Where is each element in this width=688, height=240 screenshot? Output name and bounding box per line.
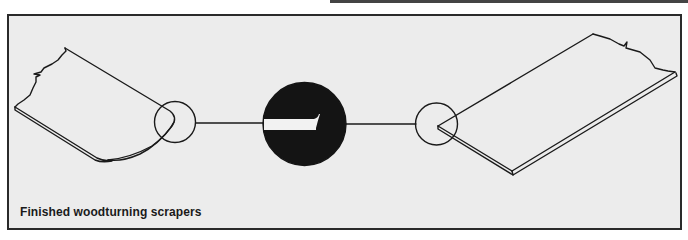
center-detail-disk — [263, 83, 346, 166]
left-scraper-broken-edge — [15, 48, 66, 107]
right-scraper-top-edge — [438, 34, 593, 126]
left-scraper-bottom-edge — [15, 107, 110, 161]
left-scraper-top-edge — [65, 48, 175, 160]
right-scraper-thickness-front — [512, 73, 677, 175]
right-scraper-broken-edge — [593, 34, 675, 72]
left-scraper — [15, 48, 175, 162]
right-scraper-bottom-edge — [438, 126, 512, 171]
right-detail-circle — [416, 103, 458, 145]
right-scraper-front-edge — [512, 72, 675, 171]
left-detail-circle — [155, 102, 196, 143]
left-scraper-end-curve — [108, 122, 174, 160]
right-scraper — [438, 34, 677, 175]
scraper-illustration — [0, 0, 688, 240]
figure-caption: Finished woodturning scrapers — [20, 205, 202, 219]
left-scraper-thickness-edge — [15, 107, 112, 162]
